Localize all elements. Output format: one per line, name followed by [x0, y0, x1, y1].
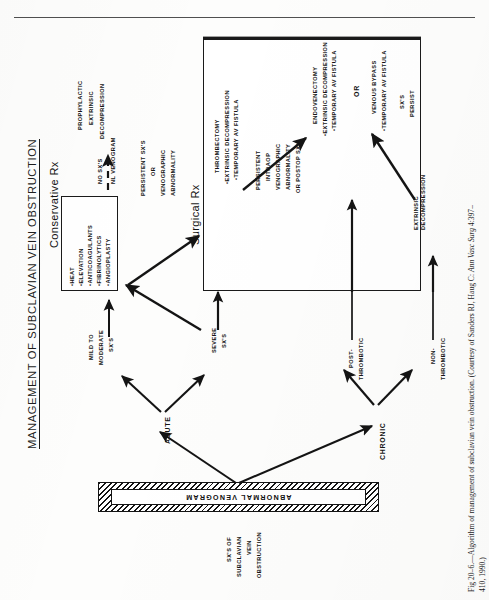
- caption-journal: Ann Vasc Surg: [467, 228, 476, 272]
- scanned-book-page: MANAGEMENT OF SUBCLAVIAN VEIN OBSTRUCTIO…: [0, 0, 489, 600]
- caption-text-b: 4:397–: [467, 205, 476, 228]
- figure-caption-line1: Fig 20–6.—Algorithm of management of sub…: [467, 205, 478, 592]
- figure-caption-line2: 410, 1990.): [478, 557, 489, 592]
- diagram-connectors: [0, 0, 489, 600]
- caption-text-a: Fig 20–6.—Algorithm of management of sub…: [467, 272, 476, 592]
